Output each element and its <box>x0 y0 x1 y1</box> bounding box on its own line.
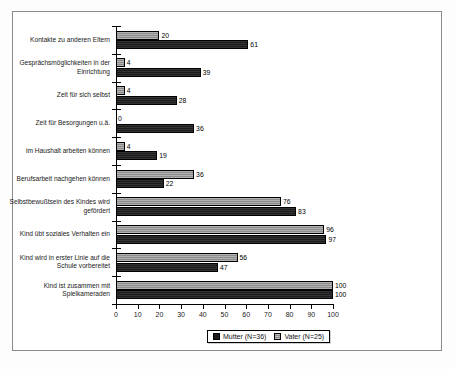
bar-value-label: 20 <box>159 31 169 40</box>
chart-bar <box>116 96 177 105</box>
bar-value-label: 56 <box>238 253 248 262</box>
x-axis-tick-label: 80 <box>279 311 301 318</box>
bar-value-label: 36 <box>194 170 204 179</box>
x-axis-tick-label: 10 <box>127 311 149 318</box>
chart-bar <box>116 68 201 77</box>
category-label: Zeit für sich selbst <box>0 82 110 110</box>
bar-value-label: 97 <box>326 235 336 244</box>
legend-item: Vater (N=25) <box>274 333 324 340</box>
category-label: Selbstbewußtsein des Kindes wird geförde… <box>0 193 110 221</box>
chart-bar <box>116 225 324 234</box>
x-axis-tick-label: 100 <box>322 311 344 318</box>
y-axis-tick <box>112 248 121 249</box>
chart-category-row: Gesprächsmöglichkeiten in der Einrichtun… <box>116 54 333 82</box>
chart-category-row: im Haushalt arbeiten können419 <box>116 137 333 165</box>
y-axis-tick <box>112 276 121 277</box>
bar-value-label: 39 <box>201 68 211 77</box>
x-axis-tick <box>159 304 160 309</box>
bar-value-label: 0 <box>116 114 122 123</box>
bar-value-label: 47 <box>218 263 228 272</box>
x-axis-tick <box>181 304 182 309</box>
chart-category-row: Kind wird in erster Linie auf die Schule… <box>116 248 333 276</box>
chart-category-row: Zeit für sich selbst428 <box>116 82 333 110</box>
y-axis-tick <box>112 26 121 27</box>
chart-bar <box>116 170 194 179</box>
x-axis-tick <box>116 304 117 309</box>
chart-bar <box>116 263 218 272</box>
chart-bar <box>116 124 194 133</box>
chart-bar <box>116 58 125 67</box>
x-axis-tick-label: 40 <box>192 311 214 318</box>
category-label: Berufsarbeit nachgehen können <box>0 165 110 193</box>
chart-figure: Kontakte zu anderen Eltern2061Gesprächsm… <box>0 0 455 369</box>
x-axis-tick <box>268 304 269 309</box>
chart-category-row: Zeit für Besorgungen u.ä.036 <box>116 109 333 137</box>
category-label: im Haushalt arbeiten können <box>0 137 110 165</box>
x-axis-tick <box>311 304 312 309</box>
x-axis-tick-label: 0 <box>105 311 127 318</box>
bar-value-label: 19 <box>157 151 167 160</box>
x-axis-tick <box>225 304 226 309</box>
category-label: Kind übt soziales Verhalten ein <box>0 221 110 249</box>
chart-bar <box>116 86 125 95</box>
chart-legend: Mutter (N=36)Vater (N=25) <box>207 330 330 343</box>
plot-area: Kontakte zu anderen Eltern2061Gesprächsm… <box>116 26 333 304</box>
y-axis-tick <box>112 109 121 110</box>
bar-value-label: 28 <box>177 96 187 105</box>
category-label: Kind ist zusammen mit Spielkameraden <box>0 276 110 304</box>
chart-category-row: Kind übt soziales Verhalten ein9697 <box>116 221 333 249</box>
category-label: Zeit für Besorgungen u.ä. <box>0 109 110 137</box>
x-axis-tick-label: 60 <box>235 311 257 318</box>
bar-value-label: 83 <box>296 207 306 216</box>
chart-bar <box>116 235 326 244</box>
chart-bar <box>116 197 281 206</box>
x-axis-tick-label: 70 <box>257 311 279 318</box>
y-axis-tick <box>112 54 121 55</box>
x-axis-tick-label: 90 <box>300 311 322 318</box>
chart-category-row: Kontakte zu anderen Eltern2061 <box>116 26 333 54</box>
x-axis-tick-label: 50 <box>214 311 236 318</box>
bar-value-label: 100 <box>333 281 346 290</box>
bar-value-label: 96 <box>324 225 334 234</box>
chart-bar <box>116 31 159 40</box>
category-label: Gesprächsmöglichkeiten in der Einrichtun… <box>0 54 110 82</box>
x-axis-tick-label: 30 <box>170 311 192 318</box>
category-label: Kind wird in erster Linie auf die Schule… <box>0 248 110 276</box>
bar-value-label: 4 <box>125 142 131 151</box>
chart-bar <box>116 142 125 151</box>
chart-category-row: Berufsarbeit nachgehen können3622 <box>116 165 333 193</box>
bar-value-label: 22 <box>164 179 174 188</box>
chart-bar <box>116 179 164 188</box>
chart-bar <box>116 281 333 290</box>
x-axis-tick <box>246 304 247 309</box>
chart-bar <box>116 207 296 216</box>
chart-category-row: Selbstbewußtsein des Kindes wird geförde… <box>116 193 333 221</box>
chart-bar <box>116 290 333 299</box>
y-axis-tick <box>112 165 121 166</box>
x-axis-tick <box>290 304 291 309</box>
x-axis-tick-label: 20 <box>148 311 170 318</box>
bar-value-label: 61 <box>248 40 258 49</box>
bar-value-label: 100 <box>333 290 346 299</box>
y-axis-tick <box>112 137 121 138</box>
chart-bar <box>116 151 157 160</box>
bar-value-label: 36 <box>194 124 204 133</box>
legend-label: Vater (N=25) <box>284 333 324 340</box>
chart-bar <box>116 253 238 262</box>
legend-swatch-mutter <box>213 333 220 340</box>
bar-value-label: 4 <box>125 58 131 67</box>
legend-label: Mutter (N=36) <box>223 333 266 340</box>
y-axis-tick <box>112 82 121 83</box>
x-axis-tick <box>333 304 334 309</box>
legend-swatch-vater <box>274 333 281 340</box>
legend-item: Mutter (N=36) <box>213 333 266 340</box>
bar-value-label: 4 <box>125 86 131 95</box>
chart-bar <box>116 40 248 49</box>
bar-value-label: 76 <box>281 197 291 206</box>
category-label: Kontakte zu anderen Eltern <box>0 26 110 54</box>
y-axis-tick <box>112 193 121 194</box>
x-axis-tick <box>138 304 139 309</box>
chart-category-row: Kind ist zusammen mit Spielkameraden1001… <box>116 276 333 304</box>
y-axis-tick <box>112 221 121 222</box>
x-axis-tick <box>203 304 204 309</box>
